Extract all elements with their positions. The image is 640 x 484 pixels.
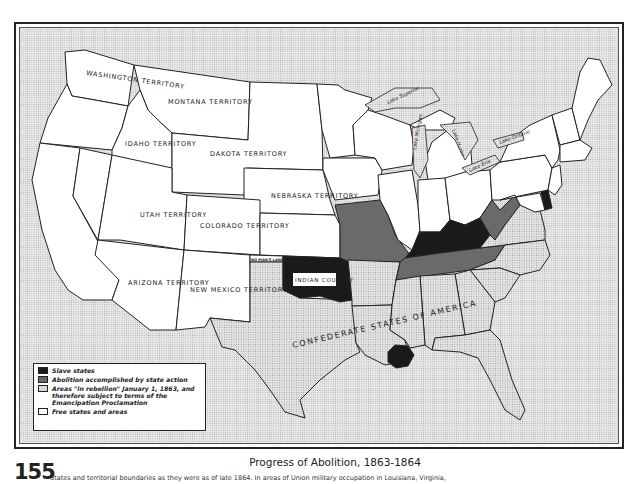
label-idaho: IDAHO TERRITORY xyxy=(125,140,197,148)
map-caption: States and territorial boundaries as the… xyxy=(50,474,446,482)
swatch-abolition xyxy=(38,376,48,383)
legend-item-free: Free states and areas xyxy=(38,408,201,415)
legend-label: Free states and areas xyxy=(52,408,127,415)
map-title: Progress of Abolition, 1863-1864 xyxy=(0,456,640,468)
legend-label: Slave states xyxy=(52,367,95,374)
legend-item-slave: Slave states xyxy=(38,367,201,374)
legend-label: Abolition accomplished by state action xyxy=(52,376,188,383)
label-no-mans-land: NO MAN'S LAND xyxy=(251,258,284,262)
label-new-mexico: NEW MEXICO TERRITORY xyxy=(190,286,287,294)
swatch-free xyxy=(38,408,48,415)
label-indian-country: INDIAN COUNTRY xyxy=(295,277,354,283)
legend-item-rebellion: Areas "in rebellion" January 1, 1863, an… xyxy=(38,385,201,406)
map-legend: Slave states Abolition accomplished by s… xyxy=(33,363,206,431)
swatch-slave xyxy=(38,367,48,374)
indiana xyxy=(418,178,450,232)
legend-label: Areas "in rebellion" January 1, 1863, an… xyxy=(52,385,201,406)
label-montana: MONTANA TERRITORY xyxy=(168,98,253,106)
label-dakota: DAKOTA TERRITORY xyxy=(210,150,287,158)
kansas xyxy=(260,213,340,258)
arkansas xyxy=(348,260,400,306)
legend-item-abolition: Abolition accomplished by state action xyxy=(38,376,201,383)
label-nebraska: NEBRASKA TERRITORY xyxy=(271,192,359,200)
label-utah: UTAH TERRITORY xyxy=(140,211,207,219)
swatch-rebellion xyxy=(38,385,48,392)
label-colorado: COLORADO TERRITORY xyxy=(200,222,290,230)
